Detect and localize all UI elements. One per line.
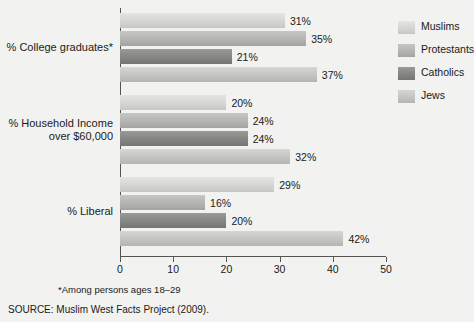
bar-row: 24% — [0, 131, 474, 146]
bar-value-label: 37% — [317, 69, 343, 81]
x-axis-tick — [280, 257, 281, 262]
bar-value-label: 35% — [306, 33, 332, 45]
bar-catholics — [120, 213, 226, 228]
legend-swatch-protestants — [398, 44, 415, 57]
bar-value-label: 31% — [285, 15, 311, 27]
x-axis-tick — [120, 257, 121, 262]
bar-jews — [120, 231, 343, 246]
bar-protestants — [120, 31, 306, 46]
bar-row: 20% — [0, 213, 474, 228]
bar-value-label: 21% — [232, 51, 258, 63]
x-axis-tick — [333, 257, 334, 262]
legend: MuslimsProtestantsCatholicsJews — [398, 18, 474, 110]
x-axis-tick — [173, 257, 174, 262]
bar-chart: 01020304050 % College graduates*% Househ… — [0, 0, 474, 322]
bar-value-label: 29% — [274, 179, 300, 191]
bar-muslims — [120, 13, 285, 28]
legend-item-muslims[interactable]: Muslims — [398, 18, 474, 41]
legend-label: Catholics — [421, 66, 464, 78]
legend-item-catholics[interactable]: Catholics — [398, 64, 474, 87]
legend-label: Muslims — [421, 20, 460, 32]
x-axis-tick-label: 10 — [167, 263, 179, 275]
bar-protestants — [120, 113, 248, 128]
bar-row: 32% — [0, 149, 474, 164]
footnote: *Among persons ages 18–29 — [58, 284, 181, 295]
legend-swatch-jews — [398, 90, 415, 103]
bar-muslims — [120, 177, 274, 192]
legend-label: Protestants — [421, 43, 474, 55]
bar-muslims — [120, 95, 226, 110]
bar-catholics — [120, 131, 248, 146]
x-axis-tick — [386, 257, 387, 262]
legend-swatch-catholics — [398, 67, 415, 80]
bar-value-label: 20% — [226, 97, 252, 109]
bar-row: 16% — [0, 195, 474, 210]
x-axis-tick-label: 40 — [327, 263, 339, 275]
bar-protestants — [120, 195, 205, 210]
x-axis-line — [120, 256, 386, 257]
legend-item-jews[interactable]: Jews — [398, 87, 474, 110]
legend-item-protestants[interactable]: Protestants — [398, 41, 474, 64]
x-axis-tick-label: 50 — [380, 263, 392, 275]
bar-jews — [120, 67, 317, 82]
bar-value-label: 42% — [343, 233, 369, 245]
bar-value-label: 20% — [226, 215, 252, 227]
source-note: SOURCE: Muslim West Facts Project (2009)… — [8, 304, 209, 315]
bar-value-label: 32% — [290, 151, 316, 163]
x-axis-tick-label: 0 — [117, 263, 123, 275]
x-axis-tick-label: 20 — [221, 263, 233, 275]
legend-swatch-muslims — [398, 21, 415, 34]
bar-group: 29%16%20%42% — [0, 177, 474, 246]
bar-row: 29% — [0, 177, 474, 192]
bar-value-label: 24% — [248, 133, 274, 145]
bar-catholics — [120, 49, 232, 64]
bar-row: 24% — [0, 113, 474, 128]
bar-value-label: 24% — [248, 115, 274, 127]
x-axis-tick-label: 30 — [274, 263, 286, 275]
bar-jews — [120, 149, 290, 164]
bar-row: 42% — [0, 231, 474, 246]
legend-label: Jews — [421, 89, 445, 101]
x-axis-tick — [226, 257, 227, 262]
bar-value-label: 16% — [205, 197, 231, 209]
